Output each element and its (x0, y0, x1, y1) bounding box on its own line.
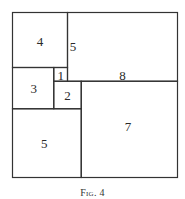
square-dissection-figure: 48312755 (0, 0, 185, 199)
region-label-sq2: 2 (64, 88, 71, 103)
side-label-rect8x5-height: 5 (70, 39, 77, 54)
region-label-rect8x5: 8 (119, 68, 126, 83)
region-label-sq7: 7 (125, 119, 132, 134)
region-label-sq5: 5 (41, 136, 48, 151)
figure-caption: Fig. 4 (0, 187, 185, 198)
region-label-sq4: 4 (37, 34, 44, 49)
region-label-sq1: 1 (57, 68, 64, 83)
region-label-sq3: 3 (31, 81, 38, 96)
